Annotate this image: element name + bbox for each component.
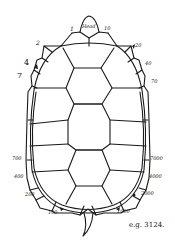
carapace-drawing — [0, 0, 175, 247]
turtle-shell-diagram: Head 1 2 4 7 700 400 200 100 10 20 40 70… — [0, 0, 175, 247]
right-label-7000: 7000 — [150, 156, 163, 161]
left-label-100: 100 — [48, 210, 58, 215]
right-label-10: 10 — [104, 26, 110, 31]
left-label-4: 4 — [24, 59, 29, 67]
left-label-400: 400 — [14, 174, 24, 179]
right-label-1000: 1000 — [117, 209, 130, 214]
head-label: Head — [82, 24, 96, 29]
right-label-70: 70 — [151, 79, 157, 84]
right-label-4000: 4000 — [149, 174, 162, 179]
left-label-1: 1 — [70, 26, 74, 32]
left-label-200: 200 — [25, 192, 35, 197]
specimen-label: e.g. 3124. — [129, 222, 164, 229]
left-label-700: 700 — [12, 156, 22, 161]
left-label-7: 7 — [17, 72, 22, 80]
right-label-2000: 2000 — [141, 191, 154, 196]
tail-outline — [83, 213, 93, 236]
left-label-2: 2 — [36, 40, 40, 46]
right-label-40: 40 — [145, 61, 151, 66]
right-label-20: 20 — [135, 43, 141, 48]
